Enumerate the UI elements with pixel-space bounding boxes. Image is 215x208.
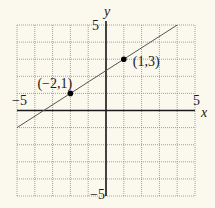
data-point — [121, 56, 127, 62]
y-axis-label: y — [102, 4, 111, 19]
point-label: (1,3) — [133, 54, 160, 70]
point-label: (−2,1) — [37, 76, 72, 92]
coordinate-plane: (−2,1)(1,3) x y −5 5 5 −5 — [0, 0, 215, 208]
data-point — [68, 91, 74, 97]
x-axis-max-tick-label: 5 — [193, 93, 200, 108]
y-axis-max-tick-label: 5 — [92, 18, 99, 33]
y-axis-min-tick-label: −5 — [90, 187, 105, 202]
x-axis-min-tick-label: −5 — [12, 93, 27, 108]
x-axis-label: x — [200, 105, 208, 120]
